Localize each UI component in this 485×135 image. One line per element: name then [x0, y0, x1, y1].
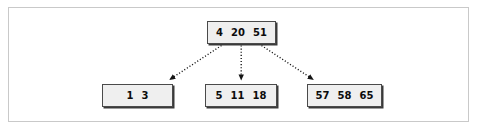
node-leaf-2-keys: 5 11 18	[212, 91, 271, 101]
btree-node-root[interactable]: 4 20 51	[207, 21, 276, 44]
node-leaf-2-key-1: 11	[227, 91, 249, 101]
node-leaf-1-keys: 1 3	[123, 91, 153, 101]
node-leaf-3-key-0: 57	[312, 91, 334, 101]
node-leaf-2-key-0: 5	[212, 91, 227, 101]
node-leaf-3-key-2: 65	[355, 91, 377, 101]
figure-container: 4 20 51 1 3 5 11 18 57 58 65	[0, 0, 485, 135]
btree-node-leaf-3[interactable]: 57 58 65	[307, 84, 382, 107]
btree-node-leaf-1[interactable]: 1 3	[102, 84, 173, 107]
node-leaf-2-key-2: 18	[248, 91, 270, 101]
node-root-key-0: 4	[212, 28, 227, 38]
node-leaf-3-keys: 57 58 65	[312, 91, 378, 101]
node-root-key-1: 20	[227, 28, 249, 38]
btree-node-leaf-2[interactable]: 5 11 18	[205, 84, 277, 107]
node-leaf-3-key-1: 58	[334, 91, 356, 101]
node-leaf-1-key-0: 1	[123, 91, 138, 101]
node-root-key-2: 51	[249, 28, 271, 38]
node-root-keys: 4 20 51	[212, 28, 271, 38]
node-leaf-1-key-1: 3	[138, 91, 153, 101]
